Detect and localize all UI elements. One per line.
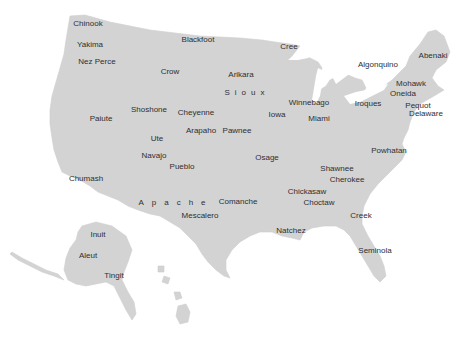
tribe-label-osage: Osage bbox=[255, 154, 279, 162]
tribe-label-choctaw: Choctaw bbox=[303, 199, 334, 207]
tribe-label-aleut: Aleut bbox=[79, 252, 97, 260]
hawaii-maui bbox=[174, 292, 182, 300]
tribe-label-chinook: Chinook bbox=[73, 20, 102, 28]
hawaii-oahu bbox=[162, 276, 170, 284]
tribe-label-yakima: Yakima bbox=[77, 41, 103, 49]
tribe-label-seminola: Seminola bbox=[358, 247, 391, 255]
tribe-label-pawnee: Pawnee bbox=[223, 127, 252, 135]
tribe-label-abenaki: Abenaki bbox=[419, 52, 448, 60]
tribe-label-nez-perce: Nez Perce bbox=[78, 58, 115, 66]
tribe-label-shawnee: Shawnee bbox=[320, 165, 353, 173]
tribe-label-powhatan: Powhatan bbox=[371, 147, 407, 155]
tribe-label-iowa: Iowa bbox=[269, 111, 286, 119]
tribe-label-miami: Miami bbox=[308, 115, 329, 123]
tribe-label-arikara: Arikara bbox=[228, 71, 253, 79]
tribe-label-pueblo: Pueblo bbox=[170, 163, 195, 171]
tribe-label-mohawk: Mohawk bbox=[396, 80, 426, 88]
hawaii-kauai bbox=[158, 266, 164, 272]
tribe-label-natchez: Natchez bbox=[276, 227, 305, 235]
tribe-label-algonquino: Algonquino bbox=[358, 61, 398, 69]
aleutian-islands bbox=[10, 252, 64, 280]
tribe-label-blackfoot: Blackfoot bbox=[182, 36, 215, 44]
tribe-label-paiute: Paiute bbox=[90, 115, 113, 123]
tribe-label-navajo: Navajo bbox=[142, 152, 167, 160]
tribe-label-chumash: Chumash bbox=[69, 175, 103, 183]
tribe-label-oneida: Oneida bbox=[390, 90, 416, 98]
tribe-label-cheyenne: Cheyenne bbox=[178, 109, 214, 117]
tribe-label-inuit: Inuit bbox=[90, 231, 105, 239]
tribe-label-cherokee: Cherokee bbox=[330, 176, 365, 184]
tribe-label-delaware: Delaware bbox=[409, 110, 443, 118]
us-map bbox=[0, 0, 472, 346]
tribe-label-arapaho: Arapaho bbox=[186, 127, 216, 135]
tribe-label-mescalero: Mescalero bbox=[182, 212, 219, 220]
tribe-label-cree: Cree bbox=[280, 43, 297, 51]
tribe-label-winnebago: Winnebago bbox=[289, 99, 329, 107]
tribe-label-tingit: Tingit bbox=[104, 272, 123, 280]
tribe-label-crow: Crow bbox=[161, 68, 180, 76]
tribe-label-apache: Apache bbox=[138, 199, 213, 207]
tribe-label-ute: Ute bbox=[151, 135, 163, 143]
hawaii-island bbox=[176, 304, 190, 324]
tribe-label-sioux: Sioux bbox=[224, 89, 269, 97]
tribe-label-comanche: Comanche bbox=[219, 198, 258, 206]
tribe-label-shoshone: Shoshone bbox=[131, 106, 167, 114]
tribe-label-iroques: Iroques bbox=[355, 100, 382, 108]
tribe-label-chickasaw: Chickasaw bbox=[288, 188, 327, 196]
tribe-label-creek: Creek bbox=[350, 212, 371, 220]
